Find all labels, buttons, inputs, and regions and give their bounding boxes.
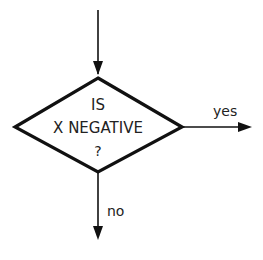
incoming-arrowhead — [93, 61, 103, 75]
no-branch-arrowhead — [93, 226, 103, 240]
yes-label: yes — [213, 103, 237, 119]
decision-text-line3: ? — [94, 143, 101, 159]
yes-branch-arrowhead — [238, 122, 252, 132]
flowchart: IS X NEGATIVE ? yes no — [0, 0, 263, 260]
no-label: no — [107, 203, 124, 219]
decision-text-line2: X NEGATIVE — [53, 119, 143, 137]
decision-text-line1: IS — [91, 96, 105, 114]
